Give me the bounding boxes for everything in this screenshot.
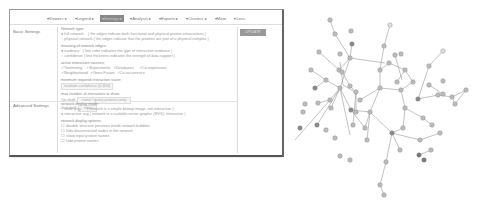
protein-node [399,88,404,93]
protein-node [329,106,334,111]
more-button[interactable]: ▾More [213,15,229,22]
protein-node [382,193,387,198]
tab-analysis[interactable]: ▾Analysis ▸ [128,15,153,22]
protein-node [393,53,398,58]
protein-node [348,56,353,61]
protein-node [340,70,345,75]
settings-panel: ▾Viewers ▸ ▾Legend ▸ ▾Settings ▸ ▾Analys… [9,9,284,157]
protein-node [464,88,469,93]
protein-node [401,126,406,131]
divider [237,27,238,153]
protein-node [315,123,320,128]
checkbox-textmining[interactable]: ✓Textmining [61,66,82,70]
network-graph[interactable] [295,0,481,208]
tab-settings[interactable]: ▾Settings ▸ [100,15,124,22]
protein-node [429,148,434,153]
protein-node [349,29,354,34]
protein-node [438,131,443,136]
protein-node [382,44,387,49]
radio-interactive-svg[interactable]: ● interactive svg ( network is a scalabl… [61,112,186,117]
protein-node [338,86,343,91]
protein-node [441,92,446,97]
protein-node [313,86,318,91]
basic-settings-content: Network type: ● full network ( the edges… [61,27,209,112]
protein-node [387,61,392,66]
advanced-settings-label: Advanced Settings [13,103,49,108]
protein-node [395,80,400,85]
protein-node [368,110,373,115]
checkbox-experiments[interactable]: ✓Experiments [86,66,110,70]
protein-node [349,108,354,113]
protein-node [388,23,393,28]
protein-node [441,79,446,84]
protein-node [324,128,329,133]
protein-node [348,158,353,163]
protein-node [317,50,322,55]
protein-node [309,68,314,73]
tab-legend[interactable]: ▾Legend ▸ [73,15,96,22]
protein-node [333,32,338,37]
protein-node [436,93,441,98]
tab-clusters[interactable]: ▾Clusters ▸ [184,15,209,22]
protein-node [378,68,383,73]
radio-physical-network[interactable]: ○ physical network ( the edges indicate … [61,37,209,42]
protein-node [354,90,359,95]
protein-node [358,98,363,103]
protein-node [384,160,389,165]
checkbox-coexpression[interactable]: ✓Co-expression [139,66,166,70]
protein-node [316,101,321,106]
tab-exports[interactable]: ▾Exports ▸ [157,15,180,22]
protein-node [378,183,383,188]
protein-node [328,98,333,103]
protein-node [418,138,423,143]
checkbox-cooccurrence[interactable]: ✓Co-occurrence [117,71,145,75]
protein-node [363,126,368,131]
protein-node [441,49,446,54]
protein-node [416,97,421,102]
protein-node [324,78,329,83]
divider [10,157,282,158]
checkbox-hide-protein-names[interactable]: ☐ hide protein names [61,139,186,144]
checkbox-databases[interactable]: ✓Databases [113,66,134,70]
protein-node [427,64,432,69]
protein-node [398,148,403,153]
min-score-select[interactable]: medium confidence (0.400) [61,83,113,90]
protein-node [430,123,435,128]
protein-node [421,116,426,121]
update-button[interactable]: UPDATE [240,29,266,36]
protein-node [338,52,343,57]
protein-node [354,110,359,115]
protein-node [338,154,343,159]
protein-node [298,126,303,131]
protein-node [303,102,308,107]
protein-node [450,95,455,100]
protein-node [365,138,370,143]
protein-node [378,86,383,91]
protein-node [301,110,306,115]
divider [57,27,58,153]
protein-node [417,153,422,158]
protein-node [390,131,395,136]
protein-node [399,52,404,57]
protein-node [422,158,427,163]
protein-node [350,42,355,47]
checkbox-gene-fusion[interactable]: ✓Gene Fusion [90,71,115,75]
protein-node [351,123,356,128]
protein-node [427,83,432,88]
protein-node [403,68,408,73]
checkbox-neighborhood[interactable]: ✓Neighborhood [61,71,88,75]
less-button[interactable]: ▾Less [232,15,247,22]
protein-node [411,80,416,85]
network-edges [295,20,466,195]
protein-node [333,136,338,141]
basic-settings-label: Basic Settings [13,29,40,34]
protein-node [328,18,333,23]
toolbar: ▾Viewers ▸ ▾Legend ▸ ▾Settings ▸ ▾Analys… [10,12,282,25]
tab-viewers[interactable]: ▾Viewers ▸ [45,15,69,22]
protein-node [348,84,353,89]
advanced-settings-content: network display mode: ○ static png ( net… [61,102,186,144]
protein-node [403,106,408,111]
protein-node [453,102,458,107]
